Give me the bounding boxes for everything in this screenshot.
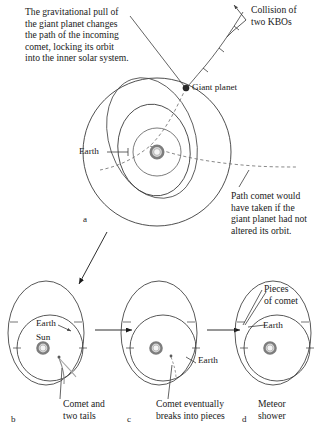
panel-c-artwork bbox=[121, 281, 240, 399]
earth-label-a: Earth bbox=[79, 146, 99, 157]
sun-c-core bbox=[153, 345, 159, 351]
undeflected-path-label: Path comet would have taken if the giant… bbox=[231, 190, 322, 236]
dashed-path-leader bbox=[239, 170, 249, 187]
sun-a-core bbox=[154, 149, 161, 156]
earth-label-c: Earth bbox=[198, 355, 218, 366]
earth-label-d: Earth bbox=[263, 320, 283, 331]
panel-a-caption: The gravitational pull of the giant plan… bbox=[25, 6, 165, 64]
earth-orbit-c bbox=[130, 315, 196, 381]
incoming-comet-path bbox=[187, 12, 243, 87]
sun-d-core bbox=[267, 345, 273, 351]
earth-label-b: Earth bbox=[36, 318, 56, 329]
comet-and-two-tails-label: Comet and two tails bbox=[63, 398, 125, 421]
comet-nucleus-c bbox=[170, 355, 173, 358]
panel-letter-c: c bbox=[127, 414, 131, 425]
sun-b-core bbox=[40, 345, 46, 351]
pieces-of-comet-label: Pieces of comet bbox=[264, 283, 320, 306]
comet-orbit-c bbox=[121, 281, 197, 385]
panel-letter-b: b bbox=[11, 414, 16, 425]
giant-planet-dot bbox=[183, 85, 189, 91]
giant-planet-label: Giant planet bbox=[192, 82, 237, 93]
figure-root: The gravitational pull of the giant plan… bbox=[0, 0, 322, 428]
undeflected-comet-path-tail bbox=[150, 146, 296, 167]
earth-leader-b bbox=[58, 325, 71, 331]
undeflected-comet-path bbox=[100, 88, 186, 170]
comet-path-tick bbox=[219, 48, 224, 52]
panel-letter-a: a bbox=[83, 214, 87, 225]
meteor-shower-label: Meteor shower bbox=[258, 398, 308, 421]
comet-label-leader-b bbox=[60, 368, 62, 399]
kbo-fragment-arrow-upper bbox=[234, 5, 246, 20]
flow-arrow-a-to-b bbox=[79, 232, 107, 284]
comet-breaks-into-pieces-label: Comet eventually breaks into pieces bbox=[156, 398, 246, 421]
collision-of-two-kbos-label: Collision of two KBOs bbox=[251, 4, 321, 27]
comet-path-tick bbox=[203, 68, 208, 72]
panel-b-artwork bbox=[8, 281, 132, 399]
panel-letter-d: d bbox=[242, 414, 247, 425]
sun-label-b: Sun bbox=[36, 332, 50, 343]
comet-nucleus-b bbox=[58, 356, 61, 359]
